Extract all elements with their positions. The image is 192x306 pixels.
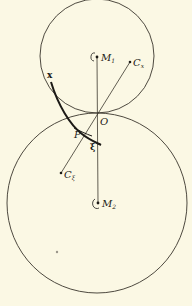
stray-dot (56, 251, 58, 253)
point-Cxi (60, 172, 63, 175)
two-circle-curvature-diagram: M1 Cx x O P ξ Cξ M2 (0, 0, 192, 306)
label-M2: M2 (101, 198, 116, 210)
label-Cxi: Cξ (64, 169, 76, 182)
label-x: x (47, 70, 53, 80)
point-M1 (96, 56, 99, 59)
rotation-arrow-M1-icon (91, 53, 95, 61)
label-M1: M1 (100, 52, 115, 64)
point-Cx (129, 61, 132, 64)
label-P: P (73, 129, 81, 140)
curvature-center-line (61, 62, 130, 173)
center-line (97, 57, 98, 203)
label-xi: ξ (90, 142, 95, 152)
label-Cx: Cx (133, 57, 145, 69)
label-O: O (100, 116, 108, 127)
point-M2 (97, 202, 100, 205)
